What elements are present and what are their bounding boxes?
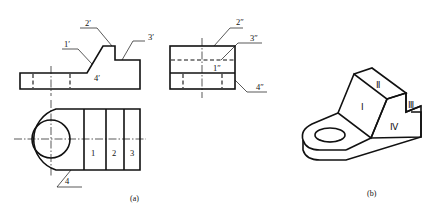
face-label-III: Ⅲ — [408, 100, 414, 110]
caption-b: (b) — [367, 189, 377, 198]
side-view: 2″ 3″ 1″ 4″ — [170, 17, 267, 98]
label-2dprime: 2″ — [236, 17, 244, 27]
isometric-view: Ⅰ Ⅱ Ⅲ Ⅳ — [302, 68, 421, 160]
leader-2prime — [80, 28, 112, 46]
label-2: 2 — [112, 148, 116, 158]
label-1dprime: 1″ — [213, 63, 221, 73]
label-3prime: 3′ — [148, 32, 154, 42]
face-label-II: Ⅱ — [376, 80, 380, 90]
label-4dprime: 4″ — [256, 82, 264, 92]
front-view-outline — [20, 46, 140, 89]
label-2prime: 2′ — [85, 18, 91, 28]
side-view-outline — [170, 46, 235, 89]
base-outline — [302, 112, 421, 160]
engineering-drawing: 1′ 2′ 3′ 4′ 2″ 3″ 1″ 4″ 1 2 3 4 (a) — [0, 0, 436, 213]
leader-1prime — [62, 49, 92, 64]
face-label-I: Ⅰ — [361, 102, 364, 112]
leader-3prime — [122, 41, 145, 60]
leader-4 — [57, 170, 82, 187]
top-view: 1 2 3 4 — [14, 100, 146, 187]
base-edge — [346, 138, 371, 150]
label-1prime: 1′ — [64, 39, 70, 49]
front-view: 1′ 2′ 3′ 4′ — [20, 18, 154, 96]
label-3dprime: 3″ — [250, 33, 258, 43]
label-1: 1 — [91, 148, 95, 158]
label-3: 3 — [130, 148, 134, 158]
face-label-IV: Ⅳ — [390, 122, 399, 132]
label-4prime: 4′ — [94, 73, 100, 83]
label-4: 4 — [65, 176, 70, 186]
caption-a: (a) — [130, 194, 139, 203]
